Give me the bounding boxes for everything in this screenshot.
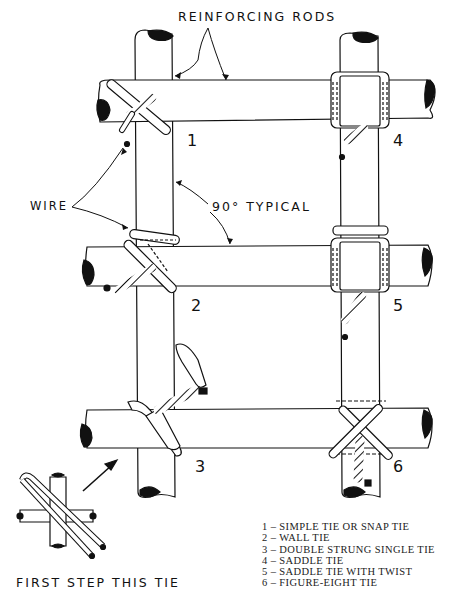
legend-item: 1 – SIMPLE TIE OR SNAP TIE [262, 521, 435, 532]
tie-number-4: 4 [393, 131, 403, 150]
tie-legend: 1 – SIMPLE TIE OR SNAP TIE 2 – WALL TIE … [262, 521, 435, 589]
legend-item: 4 – SADDLE TIE [262, 555, 435, 566]
first-step-arrow [83, 460, 117, 491]
rebar-tie-diagram [0, 0, 457, 606]
legend-item: 3 – DOUBLE STRUNG SINGLE TIE [262, 544, 435, 555]
first-step-label: FIRST STEP THIS TIE [16, 575, 180, 590]
tie-number-3: 3 [195, 457, 205, 476]
legend-item: 5 – SADDLE TIE WITH TWIST [262, 566, 435, 577]
legend-item: 6 – FIGURE-EIGHT TIE [262, 577, 435, 588]
first-step-inset [17, 473, 106, 559]
tie-number-6: 6 [393, 457, 403, 476]
angle-label: 90° TYPICAL [212, 199, 311, 214]
tie-number-5: 5 [393, 296, 403, 315]
tie-number-1: 1 [187, 131, 197, 150]
wire-label: WIRE [30, 199, 68, 213]
tie-number-2: 2 [191, 296, 201, 315]
legend-item: 2 – WALL TIE [262, 532, 435, 543]
reinforcing-rods-label: REINFORCING RODS [178, 9, 336, 24]
